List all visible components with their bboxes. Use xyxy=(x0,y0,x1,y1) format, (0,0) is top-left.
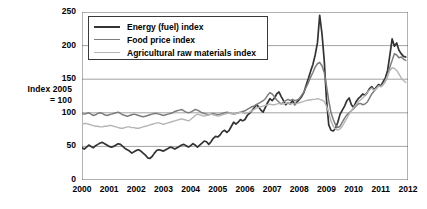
legend-item-2: Agricultural raw materials index xyxy=(94,46,262,59)
series-line-1 xyxy=(82,54,406,128)
y-tick-0: 0 xyxy=(52,174,76,184)
y-axis-title-line1: Index 2005 xyxy=(6,84,72,95)
y-tick-150: 150 xyxy=(52,73,76,83)
legend-swatch-icon-1 xyxy=(94,39,120,40)
chart-legend: Energy (fuel) indexFood price indexAgric… xyxy=(88,16,268,60)
y-axis-title-line2: = 100 xyxy=(6,95,72,106)
y-tick-50: 50 xyxy=(52,140,76,150)
legend-item-1: Food price index xyxy=(94,33,262,46)
legend-item-0: Energy (fuel) index xyxy=(94,20,262,33)
legend-swatch-icon-2 xyxy=(94,52,120,53)
y-tick-100: 100 xyxy=(52,107,76,117)
chart-figure: Index 2005 = 100 050100150200250 2000200… xyxy=(0,0,427,209)
y-tick-200: 200 xyxy=(52,40,76,50)
legend-label-0: Energy (fuel) index xyxy=(127,22,204,32)
y-axis-title: Index 2005 = 100 xyxy=(6,84,72,106)
x-tick-2012: 2012 xyxy=(391,184,425,194)
y-tick-250: 250 xyxy=(52,6,76,16)
legend-swatch-icon-0 xyxy=(94,26,120,28)
legend-label-1: Food price index xyxy=(127,35,195,45)
legend-label-2: Agricultural raw materials index xyxy=(127,48,256,58)
